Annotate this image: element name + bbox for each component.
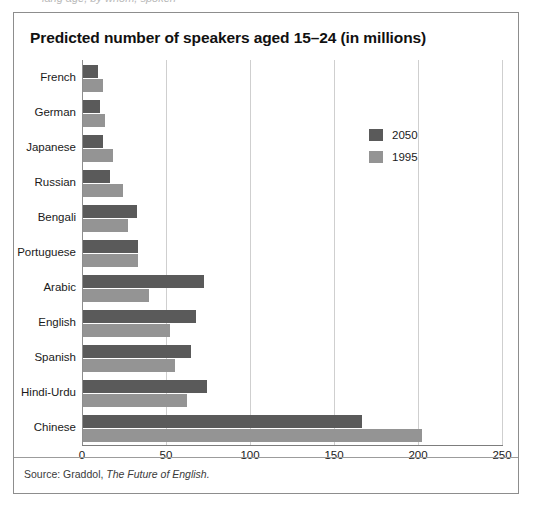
chart-title: Predicted number of speakers aged 15–24 …: [30, 29, 426, 47]
bar-spanish-2050: [83, 345, 191, 358]
category-axis-labels: FrenchGermanJapaneseRussianBengaliPortug…: [14, 60, 76, 445]
bar-portuguese-2050: [83, 240, 138, 253]
category-label-hindi-urdu: Hindi-Urdu: [0, 386, 76, 398]
gridline-200: [418, 60, 419, 445]
category-label-bengali: Bengali: [0, 211, 76, 223]
x-tick-label-200: 200: [408, 449, 427, 461]
plot-area: 050100150200250: [82, 60, 502, 445]
bar-portuguese-1995: [83, 254, 138, 267]
source-title: The Future of English.: [106, 468, 209, 480]
source-divider: [14, 457, 518, 458]
category-label-french: French: [0, 71, 76, 83]
x-tick-label-250: 250: [492, 449, 511, 461]
legend-item-1995: 1995: [369, 147, 418, 169]
category-label-russian: Russian: [0, 176, 76, 188]
x-tick-label-50: 50: [160, 449, 173, 461]
bar-japanese-2050: [83, 135, 103, 148]
bar-hindi-urdu-1995: [83, 394, 187, 407]
source-prefix: Source: Graddol,: [24, 468, 103, 480]
x-tick-label-0: 0: [79, 449, 85, 461]
legend-label-2050: 2050: [392, 129, 418, 141]
bar-arabic-1995: [83, 289, 149, 302]
bar-bengali-2050: [83, 205, 137, 218]
top-cropped-text: lang age, by whom, spoken: [0, 0, 535, 10]
legend-item-2050: 2050: [369, 125, 418, 147]
bar-russian-2050: [83, 170, 110, 183]
top-cropped-text-label: lang age, by whom, spoken: [42, 0, 176, 4]
category-label-english: English: [0, 316, 76, 328]
x-tick-label-100: 100: [240, 449, 259, 461]
bar-english-2050: [83, 310, 196, 323]
bar-chinese-2050: [83, 415, 362, 428]
bar-russian-1995: [83, 184, 123, 197]
gridline-100: [250, 60, 251, 445]
bar-german-2050: [83, 100, 100, 113]
bar-spanish-1995: [83, 359, 175, 372]
legend-swatch-1995: [369, 151, 383, 163]
bar-french-1995: [83, 79, 103, 92]
category-label-chinese: Chinese: [0, 421, 76, 433]
figure-panel: Predicted number of speakers aged 15–24 …: [13, 12, 519, 494]
category-label-portuguese: Portuguese: [0, 246, 76, 258]
legend-swatch-2050: [369, 129, 383, 141]
x-axis-line: [82, 445, 503, 446]
category-label-japanese: Japanese: [0, 141, 76, 153]
bar-chinese-1995: [83, 429, 422, 442]
bar-german-1995: [83, 114, 105, 127]
gridline-250: [502, 60, 503, 445]
category-label-arabic: Arabic: [0, 281, 76, 293]
bar-english-1995: [83, 324, 170, 337]
category-label-spanish: Spanish: [0, 351, 76, 363]
bar-french-2050: [83, 65, 98, 78]
bar-hindi-urdu-2050: [83, 380, 207, 393]
source-note: Source: Graddol, The Future of English.: [24, 468, 210, 480]
bar-bengali-1995: [83, 219, 128, 232]
gridline-150: [334, 60, 335, 445]
x-tick-label-150: 150: [324, 449, 343, 461]
legend-label-1995: 1995: [392, 151, 418, 163]
bar-arabic-2050: [83, 275, 204, 288]
bar-japanese-1995: [83, 149, 113, 162]
chart-legend: 20501995: [369, 125, 418, 169]
category-label-german: German: [0, 106, 76, 118]
